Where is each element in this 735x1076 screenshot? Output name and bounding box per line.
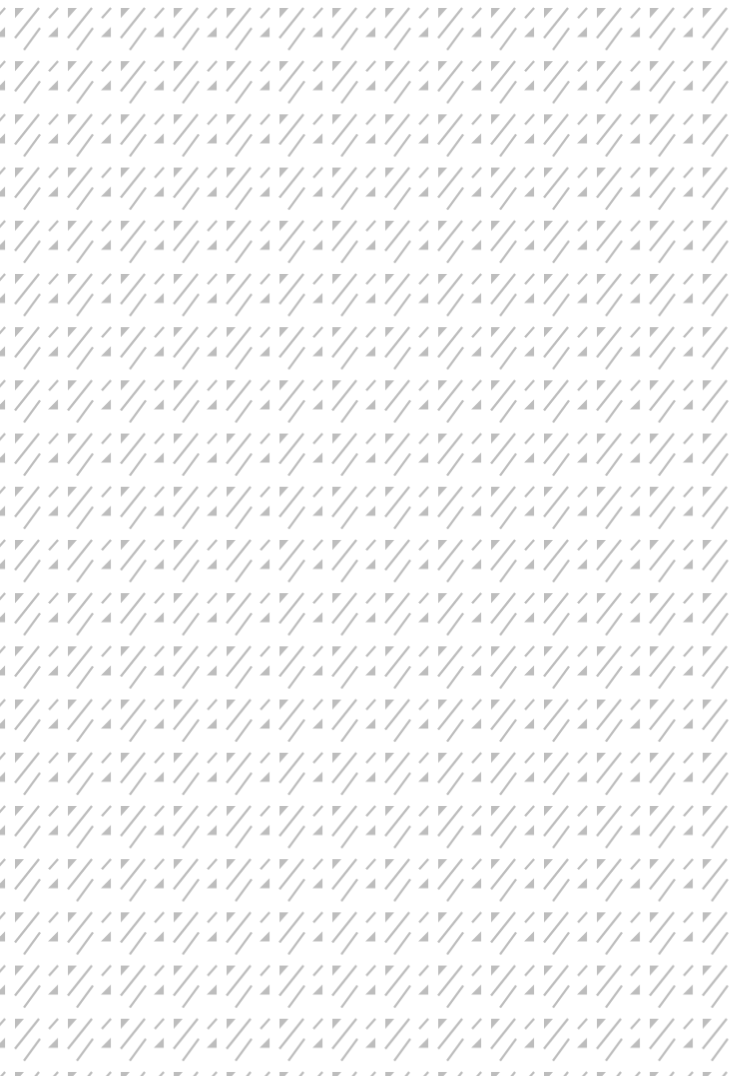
pattern-canvas: [0, 0, 735, 1076]
pattern-fill: [0, 0, 735, 1076]
geometric-pattern: [0, 0, 735, 1076]
